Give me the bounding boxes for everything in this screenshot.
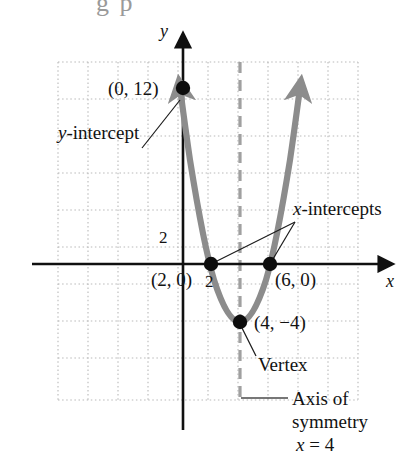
parabola-figure: g p — [0, 0, 419, 462]
label-axis-of-symmetry-equation: x = 4 — [296, 435, 334, 454]
point-x-intercept-left — [204, 257, 218, 271]
grid-vertical-lines — [58, 62, 358, 400]
label-x-intercept-right: (6, 0) — [275, 270, 316, 289]
label-y-intercept-point: (0, 12) — [108, 79, 159, 98]
label-x-intercepts-text: x-intercepts — [293, 199, 382, 218]
label-axis-of-symmetry-line1: Axis of — [292, 389, 348, 408]
x-axis-label: x — [386, 272, 394, 290]
y-axis-tick-2: 2 — [159, 229, 168, 246]
point-y-intercept — [176, 81, 190, 95]
label-x-intercept-left: (2, 0) — [151, 270, 192, 289]
label-y-intercept-text: y-intercept — [58, 123, 139, 142]
cropped-header-text: g p — [96, 0, 135, 18]
label-vertex-text: Vertex — [258, 355, 308, 374]
label-vertex-point: (4, −4) — [254, 313, 306, 332]
x-axis-tick-2: 2 — [205, 273, 214, 290]
graph-canvas — [0, 0, 419, 462]
y-axis-label: y — [160, 22, 168, 40]
point-vertex — [233, 315, 247, 329]
label-axis-of-symmetry-line2: symmetry — [292, 412, 368, 431]
